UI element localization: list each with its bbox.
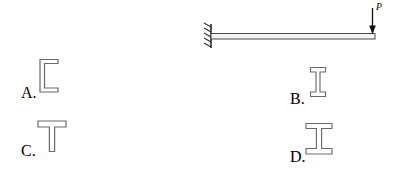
option-c-shape-tee-section: [36, 119, 68, 153]
option-a-shape-channel-section: [36, 58, 62, 94]
i-beam-narrow-outline: [311, 68, 326, 97]
option-b-shape-i-beam-narrow-flange: [307, 66, 329, 98]
channel-section-outline: [40, 60, 58, 93]
load-label-p: P: [376, 3, 382, 13]
i-beam-wide-svg: [304, 122, 334, 156]
option-c-label: C.: [21, 142, 36, 160]
option-b-label: B.: [290, 90, 305, 108]
beam-body: [211, 34, 375, 40]
option-d-shape-i-beam-wide-flange: [304, 122, 334, 156]
load-arrow-head: [369, 26, 376, 35]
option-a-label: A.: [21, 84, 37, 102]
tee-section-outline: [38, 121, 66, 152]
channel-section-svg: [36, 58, 62, 94]
cantilever-beam-diagram: [200, 0, 393, 60]
tee-section-svg: [36, 119, 68, 153]
beam-diagram-svg: [200, 0, 393, 60]
i-beam-narrow-svg: [307, 66, 329, 98]
figure-canvas: P A. C. B. D.: [0, 0, 393, 176]
fixed-support-hatching: [204, 23, 211, 47]
i-beam-wide-outline: [306, 124, 332, 155]
